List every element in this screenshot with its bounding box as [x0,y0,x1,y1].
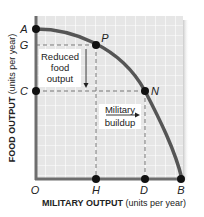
point-C [32,87,40,95]
x-axis-title-units: (units per year) [123,198,186,208]
x-axis-title-main: MILITARY OUTPUT [42,198,123,208]
label-G: G [20,39,29,51]
x-axis-title: MILITARY OUTPUT (units per year) [42,198,186,208]
point-B [177,175,185,183]
point-H [92,175,100,183]
y-axis-title: FOOD OUTPUT (units per year) [7,34,17,163]
label-D: D [140,184,148,196]
reduced-food-text-1: Reduced [41,51,79,62]
point-N [141,87,149,95]
plot-shadow [183,20,189,180]
point-P [92,41,100,49]
reduced-food-text-3: output [47,73,74,84]
label-H: H [92,184,100,196]
label-C: C [20,85,28,97]
label-N: N [151,85,159,97]
production-possibilities-chart: Reduced food output Military buildup A G… [0,0,204,217]
military-buildup-text-1: Military [105,104,135,115]
label-B: B [177,184,184,196]
label-O: O [31,184,40,196]
y-axis-title-units: (units per year) [7,34,17,97]
reduced-food-text-2: food [51,62,70,73]
point-A [32,25,40,33]
plot-grid [36,16,183,179]
y-axis-title-main: FOOD OUTPUT [7,96,17,162]
point-D [141,175,149,183]
label-P: P [101,32,109,44]
label-A: A [19,23,27,35]
military-buildup-text-2: buildup [105,117,136,128]
